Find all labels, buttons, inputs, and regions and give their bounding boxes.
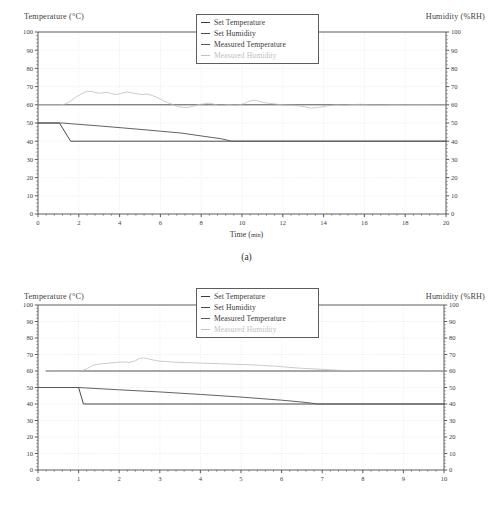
x-axis-title-close-a: ) [261,230,264,239]
x-tick-label: 2 [118,475,121,482]
legend-item[interactable]: Measured Humidity [201,324,313,335]
y-tick-label-right: 0 [449,466,453,473]
legend-item[interactable]: Measured Humidity [201,50,313,61]
legend-swatch-set-humidity [201,307,210,308]
y-tick-label-right: 70 [451,83,458,90]
x-tick-label: 4 [199,475,203,482]
y-tick-label-right: 100 [449,301,460,308]
y-tick-label-right: 90 [451,47,458,54]
legend-label-measured-humidity: Measured Humidity [214,324,277,335]
y-tick-label-left: 40 [26,400,33,407]
x-tick-label: 20 [443,219,450,226]
y-tick-label-right: 60 [451,101,458,108]
y-tick-label-left: 30 [26,156,33,163]
x-tick-label: 10 [441,475,448,482]
legend-swatch-measured-temperature [201,318,210,319]
x-tick-label: 8 [200,219,204,226]
y-tick-label-right: 20 [449,433,456,440]
y-tick-label-right: 20 [451,174,458,181]
legend-label-measured-humidity: Measured Humidity [214,50,277,61]
y-tick-label-left: 80 [26,334,33,341]
y-tick-label-left: 50 [26,384,33,391]
legend-label-set-humidity: Set Humidity [214,302,256,313]
x-tick-label: 9 [402,475,406,482]
legend-swatch-set-temperature [201,22,210,23]
y-tick-label-right: 10 [449,450,456,457]
y-tick-label-left: 60 [26,101,33,108]
x-tick-label: 0 [36,219,40,226]
y-tick-label-left: 0 [30,466,34,473]
y-tick-label-left: 90 [26,318,33,325]
y-tick-label-right: 30 [451,156,458,163]
y-tick-label-left: 90 [26,47,33,54]
y-tick-label-left: 70 [26,351,33,358]
y-tick-label-right: 100 [451,28,462,35]
x-tick-label: 8 [361,475,365,482]
y-tick-label-right: 40 [451,138,458,145]
y-tick-label-right: 90 [449,318,456,325]
figure-caption-a: (a) [0,252,493,262]
y-tick-label-left: 60 [26,367,33,374]
y-tick-label-left: 20 [26,433,33,440]
y-tick-label-right: 50 [449,384,456,391]
figure-b: Temperature (°C) Humidity (%RH) 00101020… [0,280,493,505]
y-tick-label-right: 40 [449,400,456,407]
y-tick-label-right: 0 [451,210,455,217]
x-tick-label: 1 [77,475,80,482]
x-tick-label: 6 [280,475,284,482]
legend-swatch-set-humidity [201,33,210,34]
legend-label-measured-temperature: Measured Temperature [214,39,286,50]
legend-swatch-measured-humidity [201,329,210,330]
legend-label-set-temperature: Set Temperature [214,291,265,302]
y-tick-label-right: 80 [451,65,458,72]
y-tick-label-left: 20 [26,174,33,181]
legend-swatch-measured-humidity [201,55,210,56]
x-tick-label: 12 [280,219,287,226]
x-tick-label: 5 [239,475,243,482]
x-axis-title-a: Time (min) [0,230,493,239]
y-tick-label-right: 80 [449,334,456,341]
legend-swatch-measured-temperature [201,44,210,45]
legend-item[interactable]: Set Humidity [201,28,313,39]
x-axis-title-unit-a: min [251,231,261,238]
x-tick-label: 10 [239,219,246,226]
x-tick-label: 18 [402,219,409,226]
y-tick-label-right: 70 [449,351,456,358]
y-tick-label-left: 0 [30,210,34,217]
y-tick-label-left: 100 [23,301,34,308]
y-tick-label-left: 80 [26,65,33,72]
x-tick-label: 4 [118,219,122,226]
legend-label-set-temperature: Set Temperature [214,17,265,28]
x-tick-label: 16 [361,219,368,226]
y-tick-label-left: 100 [23,28,34,35]
y-tick-label-left: 70 [26,83,33,90]
legend-item[interactable]: Measured Temperature [201,313,313,324]
series-line-measured-humidity [46,358,444,371]
legend-swatch-set-temperature [201,296,210,297]
x-tick-label: 2 [77,219,80,226]
x-tick-label: 7 [321,475,325,482]
x-axis-title-main-a: Time ( [230,230,251,239]
x-tick-label: 3 [158,475,162,482]
legend-b: Set Temperature Set Humidity Measured Te… [196,288,319,338]
y-tick-label-left: 10 [26,192,33,199]
legend-label-measured-temperature: Measured Temperature [214,313,286,324]
x-tick-label: 6 [159,219,163,226]
legend-item[interactable]: Measured Temperature [201,39,313,50]
legend-a: Set Temperature Set Humidity Measured Te… [196,14,319,64]
y-tick-label-left: 10 [26,450,33,457]
legend-item[interactable]: Set Humidity [201,302,313,313]
legend-label-set-humidity: Set Humidity [214,28,256,39]
y-tick-label-left: 30 [26,417,33,424]
x-tick-label: 14 [320,219,327,226]
y-tick-label-right: 30 [449,417,456,424]
y-tick-label-right: 50 [451,119,458,126]
x-tick-label: 0 [36,475,40,482]
y-tick-label-right: 10 [451,192,458,199]
y-tick-label-left: 50 [26,119,33,126]
y-tick-label-right: 60 [449,367,456,374]
y-tick-label-left: 40 [26,138,33,145]
legend-item[interactable]: Set Temperature [201,17,313,28]
legend-item[interactable]: Set Temperature [201,291,313,302]
figure-a: Temperature (°C) Humidity (%RH) 00101020… [0,0,493,245]
